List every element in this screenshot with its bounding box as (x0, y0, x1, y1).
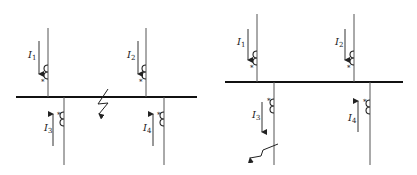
current-label-i1: I1 (27, 49, 36, 62)
current-label-i3: I3 (251, 109, 260, 122)
ct-coil-icon (142, 65, 146, 79)
feeder-1: * I1 (27, 28, 48, 97)
ct-coil-icon (270, 99, 274, 113)
polarity-mark: * (347, 64, 351, 72)
current-label-i1: I1 (236, 36, 245, 49)
ct-coil-icon (44, 65, 48, 79)
ct-coil-icon (350, 51, 354, 65)
feeder-3: * I3 (43, 97, 64, 165)
current-label-i2: I2 (126, 49, 135, 62)
feeder-2: * I2 (126, 28, 146, 97)
feeder-1: * I1 (236, 14, 257, 82)
ct-coil-icon (366, 100, 370, 114)
current-label-i4: I4 (142, 122, 152, 135)
current-label-i2: I2 (334, 36, 343, 49)
feeder-3: * I3 (250, 82, 278, 165)
polarity-mark: * (267, 97, 271, 105)
right-diagram: * I1 * I2 * I3 * (225, 14, 403, 165)
polarity-mark: * (250, 64, 254, 72)
ct-coil-icon (60, 112, 64, 126)
polarity-mark: * (363, 98, 367, 106)
busbar-diagrams: * I1 * I2 * I3 * I4 (0, 0, 417, 175)
current-label-i4: I4 (347, 112, 357, 125)
ct-coil-icon (253, 51, 257, 65)
ct-coil-icon (160, 112, 164, 126)
feeder-2: * I2 (334, 14, 354, 82)
fault-lightning-icon (98, 89, 108, 114)
current-label-i3: I3 (43, 122, 52, 135)
left-diagram: * I1 * I2 * I3 * I4 (16, 28, 197, 165)
feeder-4: * I4 (142, 97, 164, 165)
feeder-4: * I4 (347, 82, 370, 165)
polarity-mark: * (41, 78, 45, 86)
polarity-mark: * (157, 111, 161, 119)
polarity-mark: * (57, 111, 61, 119)
polarity-mark: * (139, 78, 143, 86)
